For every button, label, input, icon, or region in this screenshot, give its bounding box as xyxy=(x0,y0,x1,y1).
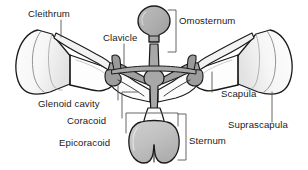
label-clavicle: Clavicle xyxy=(103,32,137,43)
label-epicoracoid: Epicoracoid xyxy=(59,137,110,148)
label-sternum: Sternum xyxy=(189,135,226,146)
left-clavicle-upright xyxy=(112,55,121,70)
right-clavicle-upright xyxy=(187,55,196,70)
label-coracoid: Coracoid xyxy=(67,115,106,126)
figure-canvas: Cleithrum Clavicle Omosternum Glenoid ca… xyxy=(0,0,308,170)
label-scapula: Scapula xyxy=(221,88,257,99)
label-glenoid-cavity: Glenoid cavity xyxy=(38,98,100,109)
label-suprascapula: Suprascapula xyxy=(228,119,288,130)
label-omosternum: Omosternum xyxy=(179,15,235,26)
pectoral-girdle-diagram: Cleithrum Clavicle Omosternum Glenoid ca… xyxy=(0,0,308,170)
label-cleithrum: Cleithrum xyxy=(28,8,70,19)
